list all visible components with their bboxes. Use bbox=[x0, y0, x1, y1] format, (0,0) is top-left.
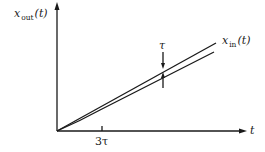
ramp-response-diagram bbox=[0, 0, 265, 152]
y-axis-label-var: x bbox=[14, 7, 20, 20]
input-ramp-line bbox=[57, 43, 216, 131]
y-axis-label: xout(t) bbox=[14, 8, 48, 19]
x-axis-label: t bbox=[250, 125, 254, 136]
input-label-sub: in bbox=[229, 40, 236, 49]
y-axis-label-sub: out bbox=[21, 13, 33, 22]
y-axis-arrowhead-icon bbox=[55, 2, 60, 10]
input-label-var: x bbox=[222, 34, 228, 47]
tick-label-3tau: 3τ bbox=[95, 136, 108, 147]
y-axis-label-arg: (t) bbox=[35, 7, 48, 20]
x-axis-arrowhead-icon bbox=[239, 129, 247, 134]
input-label: xin(t) bbox=[222, 35, 250, 46]
output-response-curve bbox=[57, 52, 214, 131]
tau-arrowhead-down-icon bbox=[161, 63, 165, 69]
input-label-arg: (t) bbox=[237, 34, 250, 47]
delay-label: τ bbox=[159, 40, 165, 51]
